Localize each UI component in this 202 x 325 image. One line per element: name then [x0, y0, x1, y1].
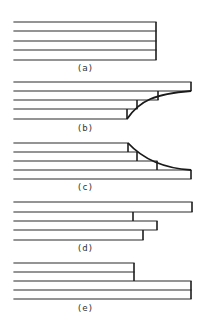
layered-plates-diagram: (a) (b) (c) (d) (e)	[0, 0, 202, 325]
panel-c	[14, 143, 191, 179]
panel-label-a: (a)	[77, 63, 93, 73]
panel-a	[14, 22, 156, 60]
panel-b	[14, 82, 191, 119]
panel-label-c: (c)	[77, 182, 93, 192]
panel-label-b: (b)	[77, 123, 93, 133]
panel-e	[14, 263, 191, 299]
panel-d	[14, 202, 192, 240]
panel-label-e: (e)	[77, 303, 93, 313]
panel-label-d: (d)	[77, 243, 93, 253]
